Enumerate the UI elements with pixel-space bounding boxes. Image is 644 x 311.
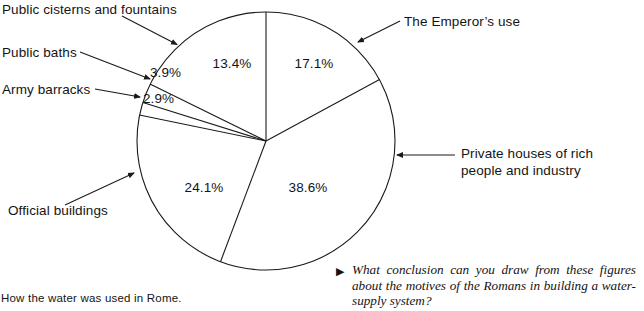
figure-caption: How the water was used in Rome. (1, 292, 182, 304)
leader-public-baths (80, 52, 150, 79)
leader-public-cisterns (122, 16, 177, 45)
slice-value-private: 38.6% (289, 180, 328, 195)
leader-emperors-use (358, 21, 400, 42)
pie-chart-figure: Public cisterns and fountains Public bat… (0, 0, 644, 311)
question-bullet-icon: ▶ (336, 264, 344, 280)
callout-label-private-houses-line1: Private houses of rich (461, 146, 593, 162)
callout-label-official-buildings: Official buildings (8, 203, 108, 219)
slice-value-emperor: 17.1% (295, 56, 334, 71)
slice-value-baths: 3.9% (150, 65, 181, 80)
slice-value-cisterns: 13.4% (213, 56, 252, 71)
callout-label-emperors-use: The Emperor’s use (404, 14, 520, 30)
callout-label-public-baths: Public baths (2, 45, 77, 61)
leader-army-barracks (95, 89, 140, 97)
slice-value-official: 24.1% (185, 180, 224, 195)
slice-value-barracks: 2.9% (143, 91, 174, 106)
question-block: ▶ What conclusion can you draw from thes… (336, 262, 636, 309)
callout-label-public-cisterns: Public cisterns and fountains (2, 2, 177, 18)
leader-official-buildings (65, 173, 134, 205)
question-text: What conclusion can you draw from these … (336, 262, 636, 309)
callout-label-private-houses-line2: people and industry (461, 163, 581, 179)
callout-label-army-barracks: Army barracks (2, 82, 90, 98)
